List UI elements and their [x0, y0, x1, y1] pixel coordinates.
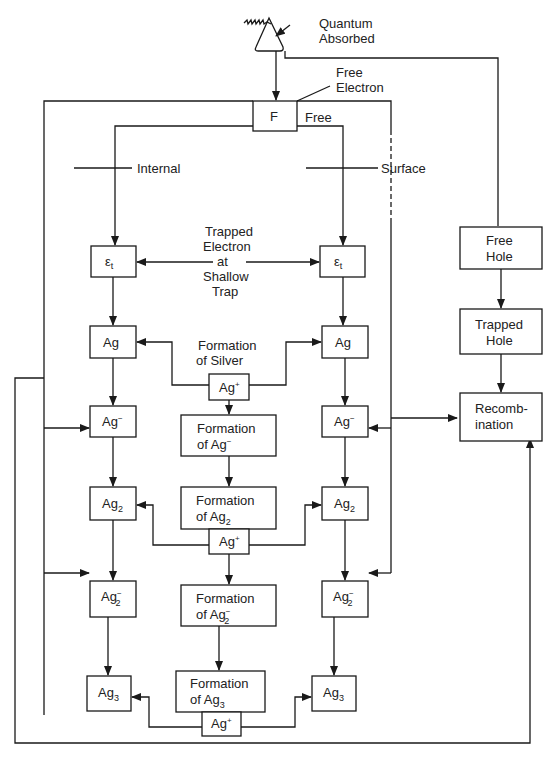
recomb-1: Recomb-: [475, 401, 528, 416]
trapped-electron-box-surface: [320, 246, 365, 277]
f-label: F: [270, 109, 278, 124]
ag-internal-label: Ag: [103, 335, 119, 350]
free-electron-label-2: Electron: [336, 80, 384, 95]
surface-label: Surface: [381, 161, 426, 176]
formation-ag2-minus-1: Formation: [196, 591, 255, 606]
free-hole-1: Free: [486, 233, 513, 248]
quantum-label-2: Absorbed: [319, 31, 375, 46]
free-hole-2: Hole: [486, 249, 513, 264]
formation-ag2-1: Formation: [196, 493, 255, 508]
free-label: Free: [305, 110, 332, 125]
internal-label: Internal: [137, 161, 180, 176]
photographic-latent-image-diagram: Quantum Absorbed F Free Electron Free In…: [0, 0, 552, 762]
trapped-label-2: Electron: [203, 239, 251, 254]
formation-silver-label-2: of Silver: [196, 353, 244, 368]
trapped-label-5: Trap: [212, 284, 238, 299]
ag-surface-label: Ag: [335, 335, 351, 350]
trapped-hole-1: Trapped: [475, 317, 523, 332]
trapped-electron-box-internal: [91, 246, 136, 277]
quantum-absorber-triangle: [244, 18, 290, 51]
formation-ag3-1: Formation: [190, 676, 249, 691]
trapped-hole-2: Hole: [486, 333, 513, 348]
formation-ag-minus-2: of Ag−: [197, 437, 232, 452]
recomb-2: ination: [475, 417, 513, 432]
trapped-label-4: Shallow: [203, 269, 249, 284]
free-electron-label-1: Free: [336, 65, 363, 80]
trapped-label-1: Trapped: [205, 224, 253, 239]
formation-ag-minus-1: Formation: [197, 421, 256, 436]
trapped-label-3: at: [217, 254, 228, 269]
quantum-label-1: Quantum: [319, 16, 372, 31]
formation-silver-label-1: Formation: [198, 338, 257, 353]
